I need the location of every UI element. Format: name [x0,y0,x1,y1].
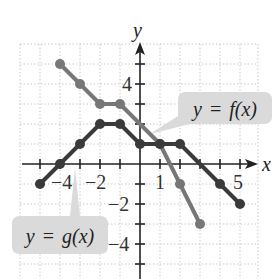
f-callout-fx: f(x) [229,98,257,121]
y-tick-label: −4 [108,233,129,255]
data-point [155,139,165,149]
x-tick-label: −4 [51,171,72,193]
g-callout-eq: = [43,225,54,247]
data-point [135,139,145,149]
data-point [95,119,105,129]
svg-text:y = f(x): y = f(x) [191,98,257,121]
data-point [215,179,225,189]
y-tick-label: −2 [108,193,129,215]
x-tick-label: 1 [155,171,165,193]
data-point [115,99,125,109]
data-point [55,59,65,69]
x-tick-label: −2 [85,171,106,193]
data-point [55,159,65,169]
data-point [175,139,185,149]
data-point [75,139,85,149]
g-callout-gx: g(x) [62,225,95,248]
data-point [195,219,205,229]
coordinate-plane: x y −4 −2 1 5 4 −2 −4 y = f(x) y = g(x) [0,0,278,279]
f-callout: y = f(x) [150,92,272,134]
g-callout-y: y [24,225,35,248]
f-callout-eq: = [210,98,221,120]
data-point [115,119,125,129]
data-point [175,179,185,189]
y-axis-label: y [131,19,142,42]
y-tick-label: 4 [122,73,132,95]
data-point [235,199,245,209]
data-point [95,99,105,109]
f-callout-y: y [191,98,202,121]
x-axis-label: x [261,153,271,175]
data-point [35,179,45,189]
data-point [75,79,85,89]
x-tick-label: 5 [233,171,243,193]
